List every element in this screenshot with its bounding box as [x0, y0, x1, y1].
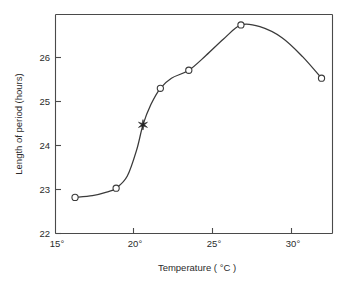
x-tick-label-20: 20°: [128, 238, 143, 249]
data-point-circle: [318, 75, 324, 81]
y-tick-label-26: 26: [39, 52, 50, 63]
x-axis-title: Temperature ( °C ): [158, 262, 236, 273]
y-axis-title: Length of period (hours): [13, 73, 24, 174]
y-tick-label-24: 24: [39, 140, 50, 151]
x-tick-label-15: 15°: [50, 238, 65, 249]
data-point-circle: [113, 185, 119, 191]
y-tick-label-22: 22: [39, 228, 50, 239]
x-tick-marks: [134, 228, 292, 234]
chart-figure: 22 23 24 25 26 15° 20° 25° 30° Temperatu…: [0, 0, 359, 281]
data-point-star: [138, 120, 147, 130]
data-point-circle: [72, 194, 78, 200]
x-tick-label-25: 25°: [207, 238, 222, 249]
x-tick-label-30: 30°: [286, 238, 301, 249]
chart-plot-area: 22 23 24 25 26 15° 20° 25° 30° Temperatu…: [0, 0, 359, 281]
data-markers: [72, 22, 325, 201]
y-tick-label-23: 23: [39, 184, 50, 195]
data-point-circle: [186, 67, 192, 73]
data-point-circle: [157, 85, 163, 91]
y-tick-label-25: 25: [39, 96, 50, 107]
data-point-circle: [238, 22, 244, 28]
data-curve: [75, 24, 321, 197]
y-tick-marks: [56, 58, 62, 234]
